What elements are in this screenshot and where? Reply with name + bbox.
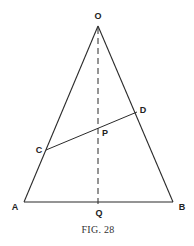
label-C: C	[36, 145, 43, 155]
label-Q: Q	[95, 208, 102, 218]
label-D: D	[140, 105, 147, 115]
segment-OB	[98, 26, 173, 202]
geometry-figure: O A B Q C D P FIG. 28	[0, 0, 194, 246]
label-O: O	[94, 11, 101, 21]
segment-OA	[24, 26, 98, 202]
label-A: A	[12, 202, 19, 212]
label-P: P	[102, 128, 108, 138]
label-B: B	[179, 202, 186, 212]
figure-caption: FIG. 28	[81, 224, 114, 235]
